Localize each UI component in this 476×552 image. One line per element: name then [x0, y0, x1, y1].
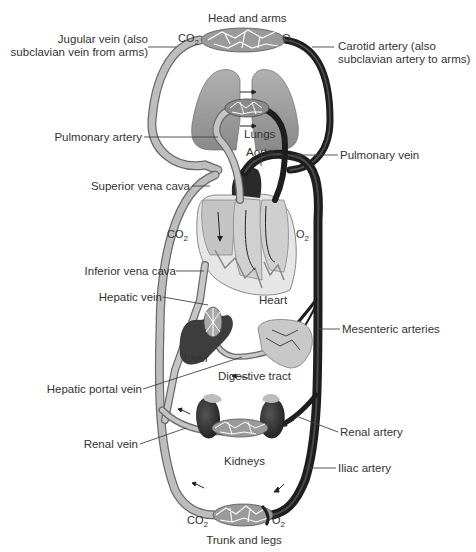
gas-o2-heart: O2 — [296, 228, 309, 243]
label-line: subclavian vein from arms) — [0, 46, 148, 59]
gas-subscript: 2 — [204, 520, 208, 529]
label-lungs: Lungs — [244, 128, 275, 141]
gas-co2-heart: CO2 — [167, 228, 188, 243]
capillary-head — [201, 28, 285, 52]
gas-o2-legs: O2 — [272, 514, 285, 529]
label-line: subclavian artery to arms) — [338, 53, 470, 66]
gas-formula: CO — [167, 228, 184, 240]
capillary-legs — [213, 504, 273, 526]
label-inferior-vena-cava: Inferior vena cava — [0, 265, 176, 278]
label-heart: Heart — [259, 294, 287, 307]
label-renal-vein: Renal vein — [0, 438, 138, 451]
label-mesenteric-arteries: Mesenteric arteries — [342, 323, 440, 336]
label-pulmonary-artery: Pulmonary artery — [0, 131, 142, 144]
label-kidneys: Kidneys — [224, 455, 265, 468]
label-line: Carotid artery (also — [338, 40, 470, 53]
label-renal-artery: Renal artery — [340, 426, 403, 439]
label-aorta: Aorta — [246, 146, 274, 159]
gas-formula: O — [282, 32, 291, 44]
gas-formula: CO — [187, 514, 204, 526]
label-pulmonary-vein: Pulmonary vein — [340, 149, 419, 162]
gas-subscript: 2 — [195, 38, 199, 47]
label-hepatic-vein: Hepatic vein — [0, 291, 162, 304]
gas-co2-legs: CO2 — [187, 514, 208, 529]
digestive-tract — [258, 320, 312, 368]
kidneys — [196, 394, 285, 438]
gas-subscript: 2 — [184, 234, 188, 243]
gas-subscript: 2 — [291, 38, 295, 47]
label-jugular-vein: Jugular vein (also subclavian vein from … — [0, 33, 148, 59]
label-line: Jugular vein (also — [0, 33, 148, 46]
label-liver: Liver — [184, 352, 209, 365]
region-head-and-arms: Head and arms — [208, 12, 278, 25]
gas-subscript: 2 — [281, 520, 285, 529]
gas-formula: O — [296, 228, 305, 240]
gas-co2-head: CO2 — [178, 32, 199, 47]
gas-formula: CO — [178, 32, 195, 44]
region-trunk-and-legs: Trunk and legs — [196, 534, 292, 547]
label-superior-vena-cava: Superior vena cava — [0, 180, 190, 193]
label-hepatic-portal-vein: Hepatic portal vein — [0, 383, 142, 396]
label-iliac-artery: Iliac artery — [338, 462, 391, 475]
gas-subscript: 2 — [305, 234, 309, 243]
circulatory-diagram: Head and arms Trunk and legs CO2 O2 CO2 … — [0, 0, 476, 552]
gas-o2-head: O2 — [282, 32, 295, 47]
capillary-lungs — [225, 99, 269, 117]
label-carotid-artery: Carotid artery (also subclavian artery t… — [338, 40, 470, 66]
gas-formula: O — [272, 514, 281, 526]
label-digestive-tract: Digestive tract — [218, 370, 291, 383]
